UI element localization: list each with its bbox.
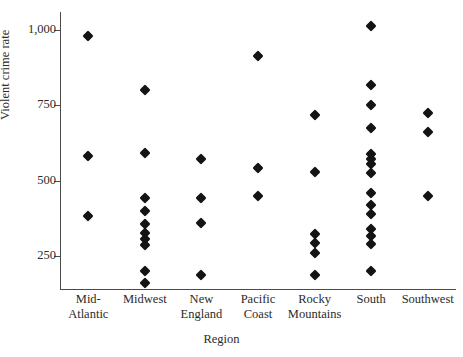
x-axis-category-labels: Mid- AtlanticMidwestNew EnglandPacific C… — [60, 292, 456, 332]
y-axis-tick-label: 500 — [37, 172, 56, 188]
data-point — [365, 208, 376, 219]
plot-area: 2505007501,000 — [60, 12, 456, 289]
data-point — [83, 210, 94, 221]
data-point — [365, 238, 376, 249]
x-axis-category-label: South — [357, 292, 386, 307]
data-point — [139, 206, 150, 217]
data-point — [83, 31, 94, 42]
data-point — [309, 270, 320, 281]
data-point — [196, 270, 207, 281]
data-point — [139, 147, 150, 158]
data-point — [83, 150, 94, 161]
data-point — [365, 167, 376, 178]
data-point — [252, 50, 263, 61]
data-point — [139, 193, 150, 204]
x-axis-category-label: Midwest — [123, 292, 167, 307]
data-point — [252, 190, 263, 201]
data-point — [309, 109, 320, 120]
data-point — [196, 192, 207, 203]
data-point — [422, 190, 433, 201]
data-point — [196, 217, 207, 228]
data-point — [365, 100, 376, 111]
data-point — [139, 266, 150, 277]
x-axis-category-label: Pacific Coast — [241, 292, 276, 322]
y-axis-tick-label: 750 — [37, 96, 56, 112]
data-point — [139, 84, 150, 95]
x-axis-category-label: Rocky Mountains — [288, 292, 341, 322]
data-point — [365, 265, 376, 276]
data-point — [309, 167, 320, 178]
y-axis-title: Violent crime rate — [0, 0, 13, 120]
data-point — [309, 247, 320, 258]
x-axis-category-label: Southwest — [402, 292, 454, 307]
data-point — [139, 277, 150, 288]
x-axis-title: Region — [0, 332, 463, 347]
data-point — [365, 20, 376, 31]
data-point — [252, 162, 263, 173]
x-axis-title-text: Region — [203, 332, 239, 347]
data-point — [196, 153, 207, 164]
y-axis-tick-label: 250 — [37, 247, 56, 263]
data-point — [365, 187, 376, 198]
violent-crime-rate-by-region-chart: Violent crime rate 2505007501,000 Mid- A… — [0, 0, 463, 357]
x-axis-category-label: Mid- Atlantic — [68, 292, 108, 322]
data-point — [422, 127, 433, 138]
x-axis-line — [60, 289, 456, 290]
y-axis-line — [60, 12, 61, 289]
data-point — [365, 122, 376, 133]
y-axis-tick-label: 1,000 — [28, 21, 56, 37]
x-axis-category-label: New England — [181, 292, 223, 322]
data-point — [422, 107, 433, 118]
data-point — [365, 79, 376, 90]
